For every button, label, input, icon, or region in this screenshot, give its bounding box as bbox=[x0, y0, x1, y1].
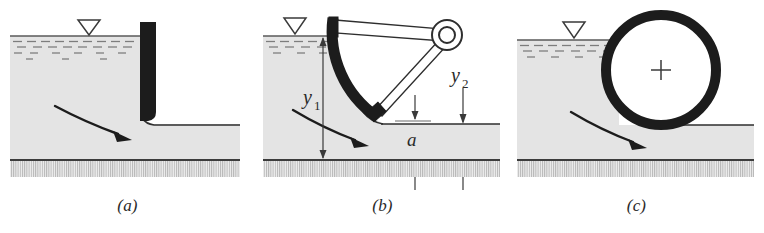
channel-bed-hatch bbox=[263, 161, 500, 177]
label-y2-letter: y bbox=[449, 64, 460, 87]
trunnion-pivot-icon bbox=[432, 20, 462, 50]
panel-caption-c: (c) bbox=[509, 196, 764, 216]
water-body bbox=[10, 36, 240, 160]
panel-drum-roller-gate: (c) bbox=[509, 0, 764, 233]
water-surface-marker-icon bbox=[78, 20, 100, 35]
gate-upper-arm bbox=[335, 20, 443, 41]
water-surface-marker-icon bbox=[563, 22, 585, 38]
gate-types-figure: (a) bbox=[0, 0, 764, 233]
label-a: a bbox=[407, 129, 417, 150]
label-y2-subscript: 2 bbox=[462, 76, 469, 91]
panel-tainter-radial-gate: y 1 a y 2 (b) bbox=[255, 0, 510, 233]
panel-caption-a: (a) bbox=[0, 196, 255, 216]
water-body-upstream bbox=[263, 36, 500, 160]
gate-lower-arm bbox=[375, 38, 448, 116]
upper-arm-anchor bbox=[329, 17, 338, 37]
jet-surface bbox=[142, 118, 240, 125]
channel-bed-hatch bbox=[517, 161, 754, 177]
label-y1-subscript: 1 bbox=[314, 98, 321, 113]
panel-caption-b: (b) bbox=[255, 196, 510, 216]
label-y1-letter: y bbox=[301, 86, 312, 109]
panel-vertical-sluice-gate: (a) bbox=[0, 0, 255, 233]
water-surface-marker-icon bbox=[284, 18, 306, 34]
channel-bed-hatch bbox=[10, 161, 240, 177]
sluice-gate-plate bbox=[140, 22, 156, 121]
